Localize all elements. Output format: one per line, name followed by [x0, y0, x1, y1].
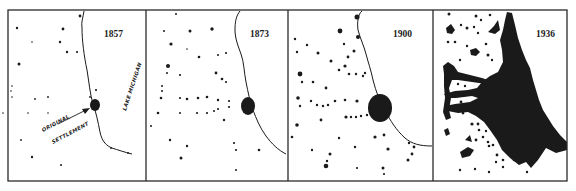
settlement-dot	[373, 135, 376, 138]
settlement-dot	[235, 149, 237, 151]
settlement-dot	[311, 149, 313, 151]
settlement-dot	[47, 112, 49, 114]
settlement-dot	[299, 105, 301, 107]
settlement-dot	[477, 123, 480, 126]
settlement-dot	[166, 72, 168, 74]
settlement-dot	[383, 173, 385, 175]
settlement-dot	[485, 130, 487, 132]
settlement-dot	[294, 38, 296, 40]
settlement-dot	[169, 139, 171, 141]
settlement-dot	[475, 15, 478, 18]
settlement-dot	[386, 147, 389, 150]
settlement-dot	[225, 52, 227, 54]
settlement-dot	[477, 91, 480, 94]
settlement-dot	[502, 159, 505, 162]
urban-core	[368, 94, 392, 122]
settlement-dot	[175, 13, 177, 15]
settlement-dot	[60, 164, 62, 166]
settlement-dot	[189, 30, 192, 33]
settlement-dot	[10, 90, 12, 92]
settlement-dot	[169, 42, 172, 45]
settlement-dot	[353, 50, 356, 53]
settlement-dot	[355, 15, 360, 20]
settlement-dot	[355, 73, 357, 75]
settlement-dot	[127, 152, 129, 154]
settlement-dot	[217, 99, 219, 101]
settlement-dot	[18, 63, 21, 66]
settlement-dot	[474, 168, 476, 170]
settlement-dot	[258, 149, 261, 152]
settlement-dot	[502, 166, 504, 168]
year-label-1900: 1900	[393, 29, 412, 39]
settlement-dot	[186, 98, 189, 101]
settlement-dot	[459, 59, 461, 61]
settlement-dot	[347, 56, 350, 59]
settlement-dot	[482, 136, 485, 139]
settlement-dot	[407, 159, 410, 162]
settlement-dot	[475, 139, 478, 142]
settlement-dot	[59, 41, 61, 43]
settlement-dot	[312, 81, 315, 84]
settlement-dot	[325, 87, 328, 90]
settlement-dot	[163, 30, 165, 32]
settlement-dot	[206, 112, 208, 114]
settlement-dot	[364, 72, 366, 74]
settlement-dot	[411, 153, 414, 156]
settlement-dot	[179, 97, 181, 99]
settlement-dot	[160, 97, 163, 100]
settlement-dot	[344, 99, 347, 102]
settlement-dot	[31, 41, 33, 43]
settlement-dot	[330, 60, 333, 63]
settlement-dot	[2, 112, 4, 114]
year-label-1873: 1873	[250, 29, 269, 39]
settlement-dot	[334, 100, 337, 103]
settlement-dot	[343, 43, 345, 45]
settlement-dot	[448, 13, 451, 16]
settlement-dot	[338, 69, 341, 72]
settlement-dot	[462, 112, 465, 115]
settlement-dot	[196, 112, 198, 114]
settlement-dot	[180, 157, 183, 160]
settlement-dot	[460, 24, 462, 26]
settlement-dot	[210, 27, 213, 30]
settlement-dot	[473, 26, 475, 28]
settlement-dot	[110, 147, 112, 149]
settlement-dot	[485, 43, 488, 46]
settlement-dot	[464, 85, 466, 87]
settlement-dot	[179, 74, 181, 76]
settlement-dot	[221, 78, 224, 81]
settlement-dot	[487, 141, 490, 144]
settlement-dot	[526, 171, 528, 173]
settlement-dot	[492, 144, 495, 147]
settlement-dot	[217, 54, 219, 56]
urban-core	[241, 97, 255, 115]
settlement-dot	[344, 115, 347, 118]
settlement-dot	[487, 54, 490, 57]
settlement-dot	[338, 29, 343, 34]
settlement-dot	[489, 14, 492, 17]
settlement-dot	[89, 96, 91, 98]
settlement-dot	[228, 106, 230, 108]
settlement-dot	[20, 139, 22, 141]
settlement-dot	[161, 90, 163, 92]
settlement-dot	[459, 169, 461, 171]
settlement-dot	[206, 96, 209, 99]
settlement-dot	[320, 119, 323, 122]
settlement-dot	[11, 96, 13, 98]
settlement-dot	[47, 96, 49, 98]
settlement-dot	[338, 137, 340, 139]
settlement-dot	[447, 41, 450, 44]
settlement-dot	[31, 156, 33, 158]
settlement-dot	[225, 81, 227, 83]
settlement-dot	[457, 83, 459, 85]
settlement-dot	[460, 101, 463, 104]
settlement-dot	[157, 112, 160, 115]
chicago-growth-maps: ORIGINAL SETTLEMENT LAKE MICHIGAN 1857 1…	[0, 0, 576, 191]
settlement-dot	[198, 56, 201, 59]
settlement-dot	[306, 44, 308, 46]
year-label-1936: 1936	[536, 29, 555, 39]
settlement-dot	[329, 153, 332, 156]
settlement-dot	[228, 100, 230, 102]
settlement-dot	[466, 27, 469, 30]
settlement-dot	[383, 134, 386, 137]
